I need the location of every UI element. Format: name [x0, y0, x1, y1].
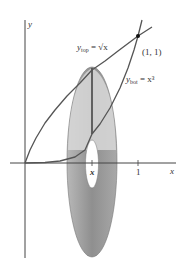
diagram-canvas: y x x 1 (1, 1) ytop = √x ybot = x³	[0, 0, 182, 268]
intersection-point	[136, 34, 140, 38]
top-curve-label: ytop = √x	[76, 42, 108, 53]
one-tick-label: 1	[136, 167, 141, 177]
bottom-curve-label: ybot = x³	[125, 74, 155, 85]
point-label: (1, 1)	[142, 47, 162, 57]
y-axis-label: y	[27, 19, 32, 29]
x-var-tick-label: x	[89, 167, 95, 177]
x-axis-label: x	[169, 166, 174, 176]
washer-diagram: y x x 1 (1, 1) ytop = √x ybot = x³	[0, 0, 182, 268]
